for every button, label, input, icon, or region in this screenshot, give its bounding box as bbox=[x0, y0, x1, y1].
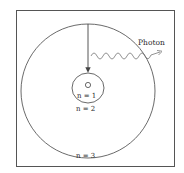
orbit-label-n2: n = 2 bbox=[76, 105, 95, 113]
bohr-diagram: Photon n = 1 n = 2 n = 3 bbox=[0, 0, 184, 173]
photon-label: Photon bbox=[138, 38, 165, 47]
photon-wave bbox=[91, 52, 160, 59]
orbit-label-n3: n = 3 bbox=[76, 152, 95, 160]
orbit-label-n1: n = 1 bbox=[77, 92, 96, 100]
diagram-frame bbox=[17, 11, 175, 167]
nucleus bbox=[85, 82, 90, 87]
